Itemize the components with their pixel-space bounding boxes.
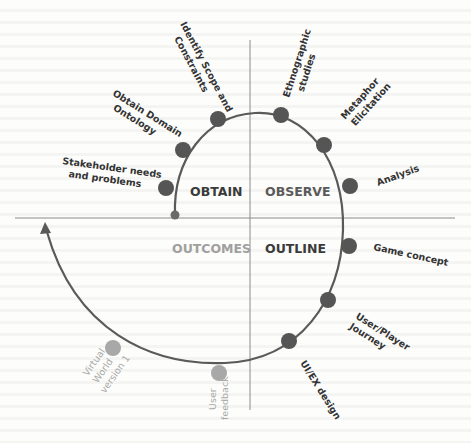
start-dot [171, 211, 180, 220]
svg-text:UI/EX design: UI/EX design [298, 358, 343, 421]
svg-text:Game concept: Game concept [373, 241, 450, 268]
dot-analysis[interactable] [342, 178, 358, 194]
svg-text:Analysis: Analysis [375, 162, 421, 188]
svg-text:Identify Scope and: Identify Scope and [178, 20, 235, 114]
dot-virtual-world[interactable] [105, 340, 121, 356]
quadrant-outcomes: OUTCOMES [172, 241, 251, 256]
label-ethnographic: Ethnographic studies [280, 27, 324, 102]
spiral-diagram: OBTAIN OBSERVE OUTLINE OUTCOMES Stakehol… [0, 0, 471, 443]
label-stakeholder: Stakeholder needs and problems [60, 155, 163, 192]
label-journey: User/Player Journey [347, 310, 413, 363]
dot-journey[interactable] [320, 292, 336, 308]
label-uiex: UI/EX design [298, 358, 343, 421]
spiral-path [47, 113, 343, 363]
label-virtual-world: Virtual World version 1 [78, 339, 132, 395]
quadrant-observe: OBSERVE [265, 184, 331, 199]
dot-game-concept[interactable] [341, 238, 357, 254]
svg-text:feedback: feedback [219, 376, 230, 420]
label-ontology: Obtain Domain Ontology [105, 87, 185, 149]
label-metaphor: Metaphor Elicitation [338, 72, 393, 129]
arrowhead-icon [40, 222, 51, 234]
quadrant-outline: OUTLINE [265, 241, 326, 256]
dot-ethnographic[interactable] [273, 107, 289, 123]
label-game-concept: Game concept [373, 241, 450, 268]
label-feedback: User feedback [207, 376, 230, 420]
dot-uiex[interactable] [281, 333, 297, 349]
svg-text:User: User [207, 388, 218, 410]
label-analysis: Analysis [375, 162, 421, 188]
dot-stakeholder[interactable] [158, 180, 174, 196]
label-scope: Identify Scope and Constraints [168, 20, 235, 120]
dot-ontology[interactable] [175, 142, 191, 158]
quadrant-obtain: OBTAIN [190, 184, 243, 199]
dot-metaphor[interactable] [316, 137, 332, 153]
dot-scope[interactable] [210, 111, 226, 127]
